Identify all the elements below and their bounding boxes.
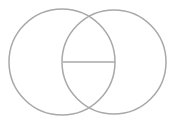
venn-diagram (0, 0, 174, 123)
